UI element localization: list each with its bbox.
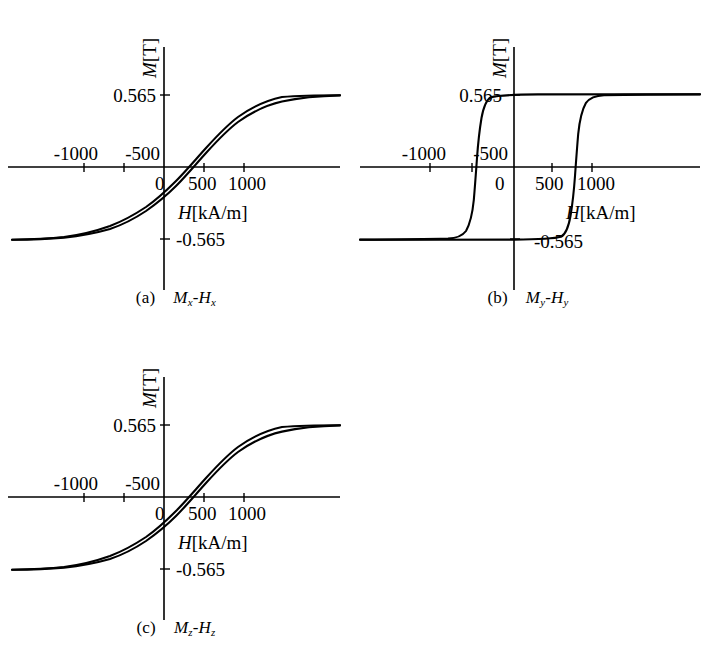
caption-a: (a)Mx-Hx: [0, 288, 352, 308]
x-tick-label--1000: -1000: [54, 143, 98, 164]
x-tick-label--1000: -1000: [54, 473, 98, 494]
caption-c: (c)Mz-Hz: [0, 618, 352, 638]
panel-a: M[T] -1000 -500 0 500 1000 0.565 -0.565 …: [0, 0, 352, 330]
caption-a-label: (a): [136, 288, 155, 307]
x-tick-label-500: 500: [188, 503, 217, 524]
x-axis-title: H[kA/m]: [177, 532, 248, 553]
x-tick-label-1000: 1000: [228, 503, 266, 524]
plot-c: M[T] -1000 -500 0 500 1000 0.565 -0.565 …: [0, 330, 352, 630]
panel-c: M[T] -1000 -500 0 500 1000 0.565 -0.565 …: [0, 330, 352, 659]
x-tick-label-0: 0: [155, 173, 165, 194]
caption-c-label: (c): [136, 618, 155, 637]
caption-b-math: My-Hy: [526, 288, 569, 307]
x-tick-label-0: 0: [495, 173, 505, 194]
x-tick-label--500: -500: [125, 143, 160, 164]
caption-b-label: (b): [487, 288, 507, 307]
x-axis-title: H[kA/m]: [177, 202, 248, 223]
plot-b: M[T] -1000 -500 0 500 1000 0.565 -0.565 …: [352, 0, 704, 300]
x-tick-label-500: 500: [535, 173, 564, 194]
x-tick-label-1000: 1000: [577, 173, 615, 194]
x-tick-label--500: -500: [473, 143, 508, 164]
caption-a-math: Mx-Hx: [173, 288, 216, 307]
y-tick-label-positive: 0.565: [113, 415, 156, 436]
y-tick-label-positive: 0.565: [113, 85, 156, 106]
x-tick-label-500: 500: [188, 173, 217, 194]
y-tick-label-negative: -0.565: [534, 231, 583, 252]
panel-b: M[T] -1000 -500 0 500 1000 0.565 -0.565 …: [352, 0, 704, 330]
svg-text:M[T]: M[T]: [489, 38, 510, 79]
x-tick-label-0: 0: [155, 503, 165, 524]
x-tick-label-1000: 1000: [228, 173, 266, 194]
y-axis-title: M[T]: [489, 38, 510, 79]
y-axis-title: M[T]: [139, 38, 160, 79]
caption-b: (b)My-Hy: [352, 288, 704, 308]
hysteresis-figure-grid: M[T] -1000 -500 0 500 1000 0.565 -0.565 …: [0, 0, 704, 659]
x-axis-title: H[kA/m]: [565, 202, 636, 223]
svg-text:M[T]: M[T]: [139, 38, 160, 79]
y-axis-title: M[T]: [139, 368, 160, 409]
y-tick-label-positive: 0.565: [459, 85, 502, 106]
caption-c-math: Mz-Hz: [174, 618, 216, 637]
x-tick-label--1000: -1000: [402, 143, 446, 164]
y-tick-label-negative: -0.565: [176, 229, 225, 250]
x-tick-label--500: -500: [125, 473, 160, 494]
y-tick-label-negative: -0.565: [176, 559, 225, 580]
plot-a: M[T] -1000 -500 0 500 1000 0.565 -0.565 …: [0, 0, 352, 300]
svg-text:M[T]: M[T]: [139, 368, 160, 409]
